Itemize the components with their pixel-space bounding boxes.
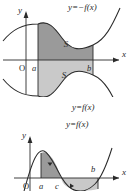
y-axis-label: y xyxy=(17,5,22,15)
upper-diagram: y x O a b S S y=−f(x) xyxy=(0,0,132,97)
lower-diagram-svg: y x O a c b y=f(x) xyxy=(0,94,132,191)
x-axis-label: x xyxy=(121,49,126,59)
y-axis-arrow-icon xyxy=(24,11,29,18)
origin-label: O xyxy=(19,63,25,73)
figure-sheet: y x O a b S S y=−f(x) y=f(x) xyxy=(0,0,132,191)
tick-label-c: c xyxy=(55,181,59,191)
tick-label-b: b xyxy=(87,63,91,73)
curve-label-neg-f: y=−f(x) xyxy=(67,2,97,12)
tick-label-a: a xyxy=(39,181,43,191)
y-axis-label: y xyxy=(21,130,26,140)
x-axis-arrow-icon xyxy=(113,176,119,181)
tick-label-b: b xyxy=(91,164,95,174)
origin-label: O xyxy=(23,181,29,191)
y-axis-arrow-icon xyxy=(28,136,33,143)
tick-label-a: a xyxy=(32,63,36,73)
upper-diagram-svg: y x O a b S S y=−f(x) xyxy=(0,0,132,97)
curve-label-f: y=f(x) xyxy=(65,119,89,129)
lower-diagram: y x O a c b y=f(x) xyxy=(0,94,132,191)
x-axis-label: x xyxy=(121,167,126,177)
area-label-upper: S xyxy=(64,39,69,49)
x-axis-arrow-icon xyxy=(113,58,119,63)
region-a-to-c-dark xyxy=(41,152,61,178)
area-label-lower: S xyxy=(62,70,67,80)
